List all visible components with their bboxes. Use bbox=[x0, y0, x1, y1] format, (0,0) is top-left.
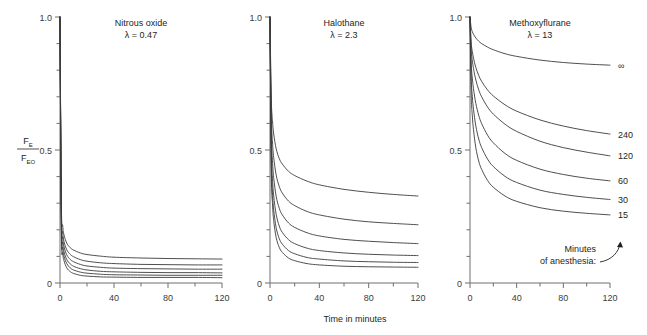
curve-label-30: 30 bbox=[618, 195, 628, 205]
y-ticklabel: 0.5 bbox=[249, 146, 262, 156]
x-ticklabel: 40 bbox=[314, 293, 324, 303]
x-ticklabel: 0 bbox=[467, 293, 472, 303]
curve-15 bbox=[60, 17, 222, 278]
panel-halothane: 1.00.5004080120Halothaneλ = 2.3 bbox=[249, 13, 425, 304]
curve-15 bbox=[470, 17, 610, 215]
curve-240 bbox=[60, 17, 222, 265]
chart-canvas: 1.00.5004080120Nitrous oxideλ = 0.471.00… bbox=[0, 0, 647, 335]
x-ticklabel: 40 bbox=[109, 293, 119, 303]
panel-title: Nitrous oxide bbox=[115, 18, 168, 28]
curve-15 bbox=[270, 17, 418, 267]
x-axis-title: Time in minutes bbox=[323, 314, 387, 324]
y-ticklabel: 1.0 bbox=[39, 13, 52, 23]
legend-annotation: Minutesof anesthesia: bbox=[540, 242, 623, 267]
curve-label-120: 120 bbox=[618, 151, 633, 161]
x-ticklabel: 120 bbox=[602, 293, 617, 303]
curve-60 bbox=[270, 17, 418, 256]
curve-60 bbox=[60, 17, 222, 273]
curve-label-60: 60 bbox=[618, 176, 628, 186]
y-ticklabel: 1.0 bbox=[249, 13, 262, 23]
panel-nitrous-oxide: 1.00.5004080120Nitrous oxideλ = 0.47 bbox=[39, 13, 229, 304]
y-axis-label-denominator: FEO bbox=[21, 153, 36, 165]
panel-title: Halothane bbox=[323, 18, 364, 28]
y-ticklabel: 0.5 bbox=[39, 146, 52, 156]
curve-label-240: 240 bbox=[618, 130, 633, 140]
x-ticklabel: 40 bbox=[512, 293, 522, 303]
x-ticklabel: 0 bbox=[267, 293, 272, 303]
panel-lambda: λ = 13 bbox=[528, 30, 553, 40]
curve-label-15: 15 bbox=[618, 210, 628, 220]
x-ticklabel: 120 bbox=[410, 293, 425, 303]
y-ticklabel: 0 bbox=[457, 279, 462, 289]
y-ticklabel: 0.5 bbox=[449, 146, 462, 156]
panel-lambda: λ = 2.3 bbox=[330, 30, 357, 40]
legend-arrow-curve bbox=[600, 243, 620, 262]
curve-30 bbox=[470, 17, 610, 199]
curve-120 bbox=[60, 17, 222, 269]
panel-title: Methoxyflurane bbox=[509, 18, 571, 28]
curve-∞ bbox=[60, 17, 222, 259]
legend-arrow-head-icon bbox=[617, 242, 623, 248]
x-ticklabel: 80 bbox=[558, 293, 568, 303]
y-ticklabel: 1.0 bbox=[449, 13, 462, 23]
y-ticklabel: 0 bbox=[257, 279, 262, 289]
curve-120 bbox=[270, 17, 418, 244]
curve-240 bbox=[270, 17, 418, 225]
curve-30 bbox=[60, 17, 222, 275]
x-ticklabel: 80 bbox=[163, 293, 173, 303]
legend-line-1: Minutes bbox=[564, 244, 596, 254]
panel-lambda: λ = 0.47 bbox=[125, 30, 157, 40]
y-ticklabel: 0 bbox=[47, 279, 52, 289]
x-ticklabel: 80 bbox=[364, 293, 374, 303]
anesthetic-washout-figure: 1.00.5004080120Nitrous oxideλ = 0.471.00… bbox=[0, 0, 647, 335]
y-axis-label-numerator: FE bbox=[23, 136, 33, 148]
y-axis-label: FEFEO bbox=[17, 136, 39, 165]
curve-label-∞: ∞ bbox=[618, 61, 624, 71]
legend-line-2: of anesthesia: bbox=[540, 256, 596, 266]
curve-∞ bbox=[270, 17, 418, 196]
x-ticklabel: 120 bbox=[214, 293, 229, 303]
panel-axes bbox=[60, 17, 222, 283]
x-ticklabel: 0 bbox=[57, 293, 62, 303]
curve-60 bbox=[470, 17, 610, 181]
